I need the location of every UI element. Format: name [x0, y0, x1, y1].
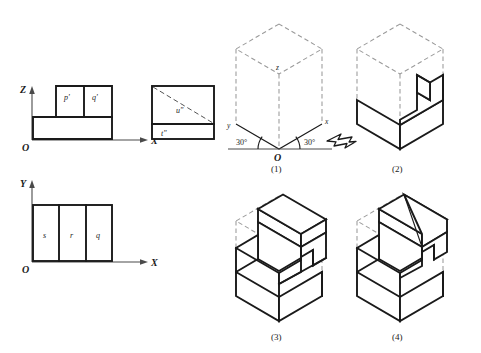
top-view-x-label: X: [150, 257, 158, 268]
option-2-base-left-face: [357, 100, 400, 149]
option-2-box-top: [357, 24, 443, 74]
option-1-y-label: y: [226, 121, 231, 130]
front-view-origin-label: O: [22, 142, 29, 153]
option-3-number: (3): [271, 332, 282, 342]
front-view-face-q-label: q': [92, 93, 98, 102]
top-view-face-s-label: s: [43, 231, 46, 240]
top-view: Y X O s r q: [20, 178, 158, 275]
arrow-icon: [327, 134, 356, 148]
option-1-z-label: z: [275, 63, 279, 72]
side-view-face-u-label: u": [176, 106, 184, 115]
option-4-solid: (4): [357, 195, 447, 343]
option-1-angle-left-label: 30°: [236, 138, 247, 147]
front-view-face-p-label: p': [63, 93, 70, 102]
option-1-angle-right-label: 30°: [304, 138, 315, 147]
option-1-origin-label: O: [274, 152, 281, 163]
option-3-solid: (3): [236, 195, 326, 343]
option-1-number: (1): [271, 164, 282, 174]
option-4-number: (4): [392, 332, 403, 342]
option-1-axes-cube: z y x 30° 30° O (1): [226, 24, 356, 174]
option-4-base-right-face: [400, 272, 443, 321]
side-view-face-t-label: t": [161, 129, 167, 138]
front-view-z-label: Z: [19, 84, 26, 95]
top-view-origin-label: O: [22, 264, 29, 275]
option-3-base-left-face: [236, 272, 279, 321]
option-2-number: (2): [392, 164, 403, 174]
option-2-solid: (2): [357, 24, 443, 174]
top-view-y-label: Y: [20, 178, 27, 189]
front-view: Z X O p' q': [19, 84, 158, 153]
option-1-top-face: [236, 24, 322, 74]
front-view-outline: [33, 86, 112, 139]
option-1-x-label: x: [324, 117, 329, 126]
option-4-base-left-face: [357, 272, 400, 321]
side-view: u" t": [152, 86, 214, 139]
top-view-face-q-label: q: [96, 231, 100, 240]
engineering-drawing-figure: Z X O p' q' u" t" Y X O: [0, 0, 481, 353]
